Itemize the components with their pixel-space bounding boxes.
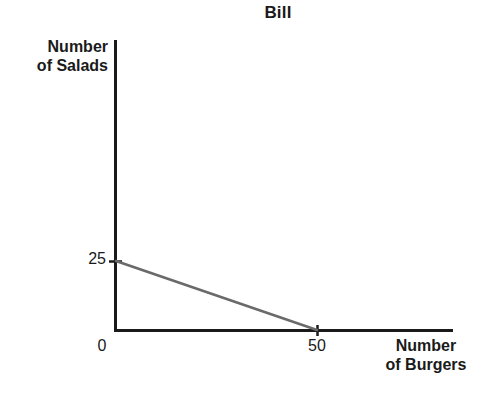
- x-axis-label: Number of Burgers: [374, 337, 478, 375]
- y-tick-label-25: 25: [72, 250, 106, 268]
- y-axis-label: Number of Salads: [12, 38, 108, 76]
- x-tick-label-50: 50: [300, 337, 334, 355]
- x-axis-label-line1: Number: [374, 337, 478, 356]
- y-axis-label-line2: of Salads: [12, 57, 108, 76]
- x-tick-label-0: 0: [90, 337, 114, 355]
- y-axis-label-line1: Number: [12, 38, 108, 57]
- budget-constraint-chart: Bill Number of Salads Number of Burgers …: [0, 0, 480, 393]
- budget-constraint-line: [116, 261, 317, 330]
- x-axis-label-line2: of Burgers: [374, 356, 478, 375]
